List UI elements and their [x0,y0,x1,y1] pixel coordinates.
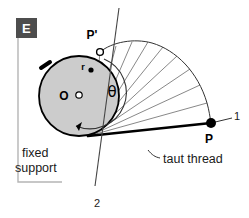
radius-endpoint-dot [88,67,93,72]
label-fixed-support-line2: support [15,161,57,175]
label-taut-thread: taut thread [163,152,223,166]
point-p-marker [206,118,216,128]
point-p-prime-marker [97,49,104,56]
taut-thread-leader [148,150,160,158]
label-radius-r: r [81,62,85,72]
involute-diagram-figure: E O r θ P' P 1 2 fixed support taut thre… [0,0,249,218]
label-point-p-prime: P' [87,28,98,42]
diagram-canvas: E O r θ P' P 1 2 fixed support taut thre… [0,0,249,218]
thread-anchor-tick [41,62,50,68]
label-position-1: 1 [234,110,240,122]
label-center-o: O [59,89,68,103]
label-fixed-support-line1: fixed [22,146,48,160]
disk-center-point [76,92,82,98]
label-point-p: P [205,132,213,146]
label-position-2: 2 [94,197,100,209]
label-angle-theta: θ [107,83,116,101]
panel-letter: E [22,21,31,36]
